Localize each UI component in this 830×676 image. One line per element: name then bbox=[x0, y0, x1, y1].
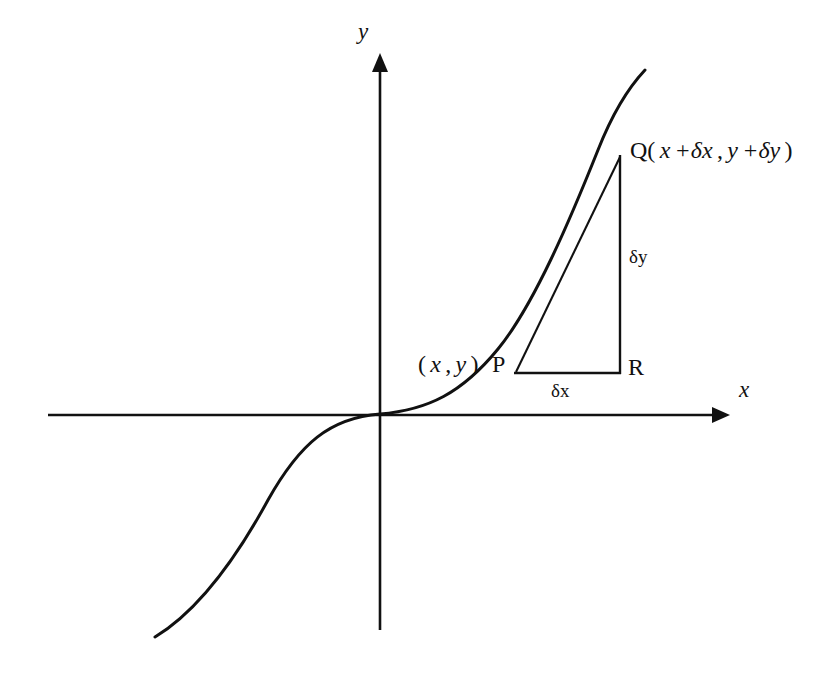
p-paren-open: ( bbox=[418, 351, 426, 377]
p-coord-y: y bbox=[456, 351, 467, 377]
q-comma: , bbox=[717, 137, 723, 163]
q-plus-delta-y: +δy bbox=[742, 137, 780, 163]
q-coord-y: y bbox=[727, 137, 738, 163]
point-q-coordinate-label: Q(x+δx,y+δy) bbox=[630, 138, 793, 162]
q-plus-delta-x: +δx bbox=[675, 137, 713, 163]
delta-x-label: δx bbox=[551, 381, 569, 400]
point-r-label: R bbox=[628, 355, 644, 379]
calculus-derivative-diagram bbox=[0, 0, 830, 676]
q-prefix: Q( bbox=[630, 137, 655, 163]
delta-y-label: δy bbox=[629, 247, 647, 266]
y-axis-label: y bbox=[358, 20, 368, 43]
p-coord-comma: , bbox=[445, 351, 451, 377]
q-paren-close: ) bbox=[785, 137, 793, 163]
p-coord-x: x bbox=[430, 351, 441, 377]
point-p-coordinate-label: (x,y) bbox=[418, 352, 479, 376]
diagram-background bbox=[0, 0, 830, 676]
x-axis-label: x bbox=[739, 378, 749, 401]
point-p-label: P bbox=[492, 352, 505, 376]
p-paren-close: ) bbox=[471, 351, 479, 377]
q-coord-x: x bbox=[660, 137, 671, 163]
